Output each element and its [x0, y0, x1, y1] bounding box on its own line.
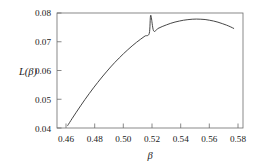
x-tick-label: 0.56	[201, 134, 217, 144]
likelihood-plot: 0.08 0.07 0.06 0.05 0.04 0.46 0.48 0.50 …	[0, 0, 259, 164]
x-tick-label: 0.48	[87, 134, 103, 144]
x-tick-label: 0.52	[144, 134, 160, 144]
x-tick-label: 0.54	[173, 134, 189, 144]
y-axis-title: L(β)	[18, 66, 38, 78]
y-tick-label: 0.06	[35, 66, 51, 76]
x-tick-label: 0.58	[230, 134, 246, 144]
y-tick-label: 0.05	[35, 95, 51, 105]
chart-figure: 0.08 0.07 0.06 0.05 0.04 0.46 0.48 0.50 …	[0, 0, 259, 164]
y-tick-label: 0.08	[35, 8, 51, 18]
y-tick-label: 0.07	[35, 37, 51, 47]
x-tick-label: 0.50	[115, 134, 131, 144]
x-axis-title: β	[146, 150, 153, 161]
y-tick-label: 0.04	[35, 124, 51, 134]
x-tick-label: 0.46	[58, 134, 74, 144]
